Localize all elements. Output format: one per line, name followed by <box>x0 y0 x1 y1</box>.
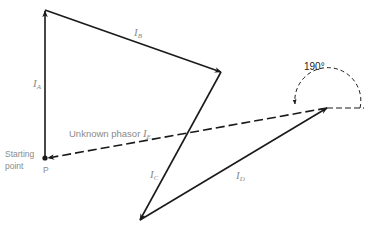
label-point: point <box>5 162 23 171</box>
phasor-diagram: IA IB IC ID Unknown phasor IE 190° Start… <box>0 0 373 227</box>
phasor-ic-arrow <box>140 72 221 220</box>
label-ia: IA <box>33 78 41 91</box>
label-ic: IC <box>150 169 158 182</box>
label-angle: 190° <box>304 62 325 72</box>
phasor-ib-arrow <box>45 10 221 72</box>
label-id: ID <box>236 170 245 183</box>
label-unknown-phasor: Unknown phasor IE <box>69 128 151 141</box>
label-starting: Starting <box>5 150 34 159</box>
starting-point-dot <box>42 155 47 160</box>
angle-arc <box>295 68 361 108</box>
phasor-diagram-svg <box>0 0 373 227</box>
label-ib: IB <box>134 27 142 40</box>
label-p: P <box>43 166 49 175</box>
